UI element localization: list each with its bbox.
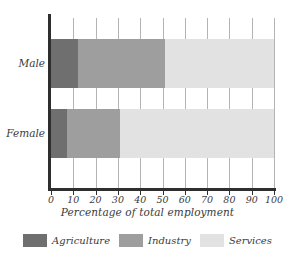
legend-label-agriculture: Agriculture bbox=[52, 235, 110, 246]
plot-area bbox=[51, 18, 274, 188]
x-tick-label-40: 40 bbox=[134, 194, 146, 205]
bar-segment-female-agriculture bbox=[51, 109, 67, 158]
x-tick-label-80: 80 bbox=[223, 194, 235, 205]
x-tick-label-30: 30 bbox=[112, 194, 124, 205]
bar-segment-male-services bbox=[165, 39, 274, 88]
legend-swatch-agriculture bbox=[23, 234, 47, 247]
y-axis-line bbox=[48, 14, 51, 191]
x-tick-label-100: 100 bbox=[265, 194, 283, 205]
legend-item-agriculture[interactable]: Agriculture bbox=[23, 234, 110, 247]
bar-row-male bbox=[51, 39, 274, 88]
bar-segment-female-industry bbox=[67, 109, 121, 158]
x-tick-label-90: 90 bbox=[246, 194, 258, 205]
category-label-male: Male bbox=[0, 57, 45, 69]
legend-item-services[interactable]: Services bbox=[200, 234, 272, 247]
chart-legend: AgricultureIndustryServices bbox=[0, 234, 295, 247]
legend-label-services: Services bbox=[229, 235, 272, 246]
legend-swatch-industry bbox=[119, 234, 143, 247]
x-tick-label-10: 10 bbox=[67, 194, 79, 205]
legend-item-industry[interactable]: Industry bbox=[119, 234, 191, 247]
gridline-100 bbox=[274, 18, 275, 188]
x-tick-label-20: 20 bbox=[90, 194, 102, 205]
bar-segment-male-agriculture bbox=[51, 39, 78, 88]
bar-segment-male-industry bbox=[78, 39, 165, 88]
stacked-bar-chart: 0102030405060708090100 MaleFemale Percen… bbox=[0, 0, 295, 259]
category-label-female: Female bbox=[0, 127, 45, 139]
x-axis-title: Percentage of total employment bbox=[0, 206, 295, 218]
x-tick-label-0: 0 bbox=[48, 194, 54, 205]
legend-swatch-services bbox=[200, 234, 224, 247]
bar-row-female bbox=[51, 109, 274, 158]
x-tick-label-50: 50 bbox=[156, 194, 168, 205]
x-tick-label-70: 70 bbox=[201, 194, 213, 205]
legend-label-industry: Industry bbox=[148, 235, 191, 246]
bar-segment-female-services bbox=[120, 109, 274, 158]
x-tick-label-60: 60 bbox=[179, 194, 191, 205]
